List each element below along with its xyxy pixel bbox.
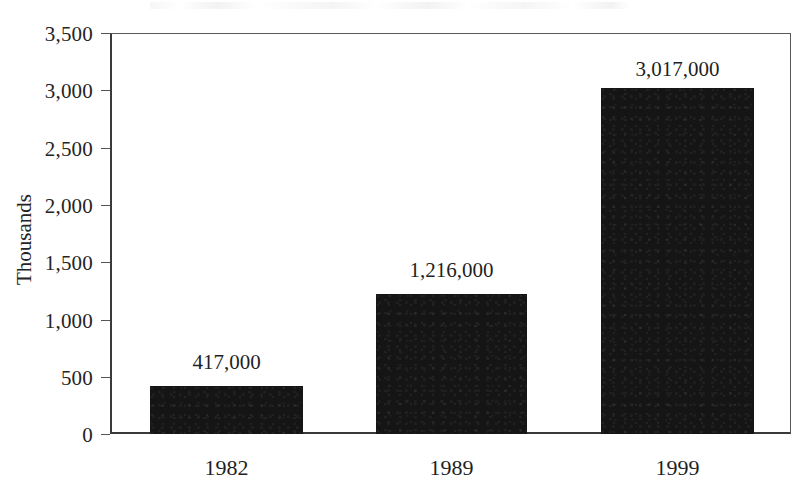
y-tick-label-0: 0 — [82, 425, 93, 446]
y-tick-mark-2000 — [101, 205, 110, 206]
y-tick-label-3000: 3,000 — [45, 81, 93, 102]
y-tick-mark-1500 — [101, 262, 110, 263]
y-tick-label-2500: 2,500 — [45, 139, 93, 160]
category-label-1989: 1989 — [376, 457, 527, 479]
bar-1989[interactable] — [376, 294, 527, 434]
y-tick-mark-3000 — [101, 90, 110, 91]
bar-1982[interactable] — [150, 386, 303, 434]
y-tick-mark-2500 — [101, 148, 110, 149]
y-tick-mark-3500 — [101, 33, 110, 34]
scan-artifact — [150, 2, 630, 9]
y-tick-mark-1000 — [101, 320, 110, 321]
bar-1999[interactable] — [601, 88, 754, 434]
y-tick-label-1500: 1,500 — [45, 253, 93, 274]
bar-value-1982: 417,000 — [150, 352, 303, 373]
category-label-1999: 1999 — [601, 457, 754, 479]
y-tick-label-2000: 2,000 — [45, 196, 93, 217]
y-tick-mark-500 — [101, 377, 110, 378]
y-axis-title: Thousands — [14, 170, 35, 310]
y-tick-mark-0 — [101, 434, 110, 435]
bar-value-1989: 1,216,000 — [351, 260, 552, 281]
bar-value-1999: 3,017,000 — [576, 59, 779, 80]
y-tick-label-1000: 1,000 — [45, 311, 93, 332]
category-label-1982: 1982 — [150, 457, 303, 479]
y-tick-label-500: 500 — [61, 368, 93, 389]
y-tick-label-3500: 3,500 — [45, 24, 93, 45]
bar-chart: Thousands 3,500 3,000 2,500 2,000 1,500 … — [0, 0, 807, 494]
